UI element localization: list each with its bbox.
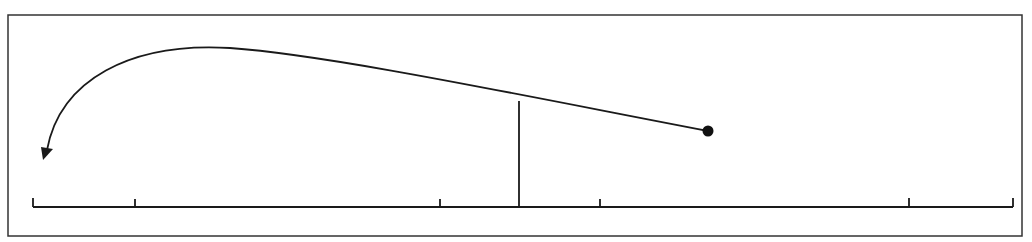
number-line xyxy=(33,198,1013,207)
arrowhead-icon xyxy=(41,147,53,160)
diagram-frame xyxy=(8,15,1022,236)
point-marker xyxy=(703,126,714,137)
diagram-canvas xyxy=(0,0,1032,242)
curved-arrow xyxy=(47,47,708,150)
diagram-svg xyxy=(0,0,1032,242)
number-line-ticks xyxy=(33,198,1013,207)
